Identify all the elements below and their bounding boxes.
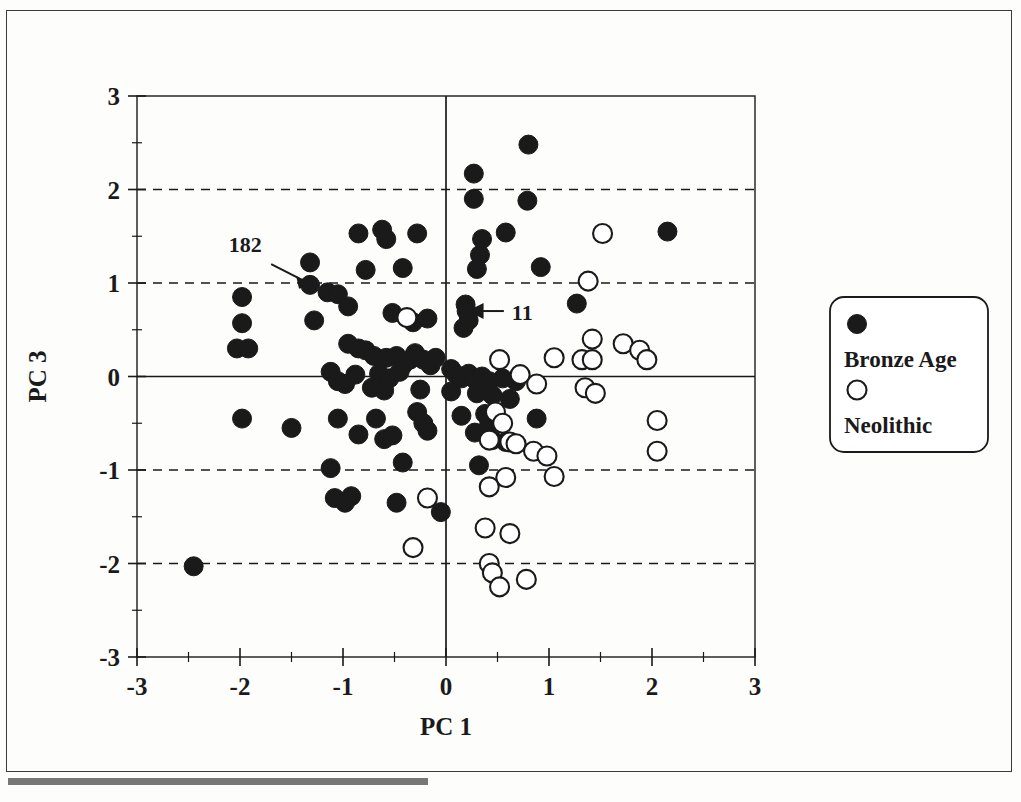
data-point [519, 135, 538, 154]
data-point [490, 350, 509, 369]
data-point [393, 453, 412, 472]
data-point [493, 414, 512, 433]
data-point [239, 339, 258, 358]
data-point [476, 518, 495, 537]
legend-label-bronze-age: Bronze Age [844, 347, 957, 372]
data-point [648, 442, 667, 461]
data-point [397, 308, 416, 327]
data-point [233, 314, 252, 333]
data-point [342, 487, 361, 506]
data-point [507, 434, 526, 453]
data-point [418, 421, 437, 440]
data-point [583, 330, 602, 349]
data-point [349, 425, 368, 444]
data-point [593, 224, 612, 243]
data-point [383, 426, 402, 445]
x-tick-label-0: -3 [127, 673, 148, 700]
data-point [579, 272, 598, 291]
data-point [531, 258, 550, 277]
data-point [339, 297, 358, 316]
data-point [518, 191, 537, 210]
data-point [442, 382, 461, 401]
data-point [305, 311, 324, 330]
data-point [418, 489, 437, 508]
data-point [586, 384, 605, 403]
x-tick-label-1: -2 [230, 673, 251, 700]
y-tick-label-0: 3 [108, 83, 121, 110]
figure-canvas: -3-2-101233210-1-2-3PC 1PC 318211Bronze … [0, 0, 1021, 802]
data-point [408, 224, 427, 243]
data-point [545, 467, 564, 486]
y-tick-label-3: 0 [108, 364, 121, 391]
y-tick-label-5: -2 [99, 551, 120, 578]
data-point [233, 409, 252, 428]
x-tick-label-5: 2 [646, 673, 659, 700]
data-point [454, 318, 473, 337]
data-point [517, 570, 536, 589]
data-point [282, 418, 301, 437]
data-point [233, 288, 252, 307]
legend-label-neolithic: Neolithic [844, 413, 932, 438]
data-point [527, 409, 546, 428]
y-tick-label-1: 2 [108, 177, 121, 204]
data-point [469, 456, 488, 475]
data-point [377, 230, 396, 249]
x-tick-label-4: 1 [543, 673, 556, 700]
legend-marker-open-circle [848, 381, 867, 400]
data-point [418, 309, 437, 328]
legend-marker-filled-circle [848, 315, 867, 334]
data-point [328, 409, 347, 428]
data-point [500, 524, 519, 543]
data-point [537, 446, 556, 465]
annotation-label-182: 182 [229, 232, 262, 257]
data-point [637, 350, 656, 369]
data-point [301, 253, 320, 272]
data-point [567, 294, 586, 313]
data-point [321, 459, 340, 478]
data-point [411, 380, 430, 399]
data-point [480, 477, 499, 496]
data-point [496, 223, 515, 242]
y-tick-label-6: -3 [99, 644, 120, 671]
y-axis-title: PC 3 [24, 350, 51, 402]
annotation-label-11: 11 [512, 300, 533, 325]
data-point [527, 374, 546, 393]
data-point [366, 409, 385, 428]
x-tick-label-3: 0 [440, 673, 453, 700]
data-point [545, 348, 564, 367]
y-tick-label-4: -1 [99, 457, 120, 484]
x-axis-title: PC 1 [420, 713, 472, 740]
data-point [375, 381, 394, 400]
data-point [658, 222, 677, 241]
data-point [480, 431, 499, 450]
pca-scatter-plot: -3-2-101233210-1-2-3PC 1PC 318211Bronze … [0, 0, 1021, 802]
data-point [583, 350, 602, 369]
data-point [452, 406, 471, 425]
data-point [390, 362, 409, 381]
series-bronze-age [184, 135, 677, 576]
data-point [393, 259, 412, 278]
data-point [184, 557, 203, 576]
data-point [346, 365, 365, 384]
data-point [464, 164, 483, 183]
data-point [483, 386, 502, 405]
x-tick-label-6: 3 [749, 673, 762, 700]
data-point [464, 189, 483, 208]
data-point [349, 224, 368, 243]
data-point [404, 538, 423, 557]
data-point [648, 411, 667, 430]
data-point [467, 259, 486, 278]
data-point [356, 260, 375, 279]
data-point [490, 577, 509, 596]
y-tick-label-2: 1 [108, 270, 121, 297]
data-point [387, 493, 406, 512]
x-tick-label-2: -1 [333, 673, 354, 700]
